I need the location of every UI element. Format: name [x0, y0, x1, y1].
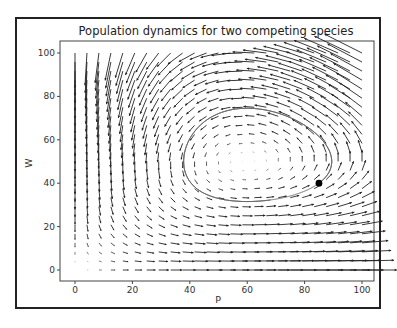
y-axis-label: W — [23, 158, 34, 168]
svg-text:40: 40 — [44, 178, 56, 188]
svg-text:100: 100 — [38, 48, 55, 58]
svg-text:60: 60 — [44, 135, 56, 145]
plot-area — [60, 41, 374, 281]
x-axis-ticks: 020406080100 — [72, 281, 371, 295]
quiver-plot: Population dynamics for two competing sp… — [0, 0, 397, 328]
y-axis-ticks: 020406080100 — [38, 48, 60, 275]
svg-text:100: 100 — [353, 285, 370, 295]
svg-text:20: 20 — [127, 285, 139, 295]
chart-title: Population dynamics for two competing sp… — [79, 24, 354, 38]
svg-text:60: 60 — [241, 285, 253, 295]
svg-text:80: 80 — [299, 285, 311, 295]
initial-point-marker — [316, 180, 323, 187]
vector-field-arrows — [74, 34, 397, 271]
svg-text:0: 0 — [72, 285, 78, 295]
svg-text:0: 0 — [49, 265, 55, 275]
svg-text:80: 80 — [44, 91, 56, 101]
x-axis-label: P — [215, 294, 221, 305]
svg-text:40: 40 — [184, 285, 196, 295]
svg-text:20: 20 — [44, 222, 56, 232]
